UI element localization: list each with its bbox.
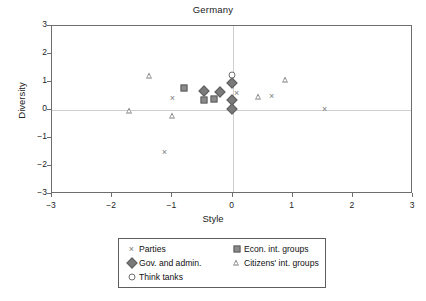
y-tick-label: −1 <box>25 131 47 141</box>
data-point <box>161 149 168 156</box>
data-point <box>169 95 176 102</box>
data-point <box>226 103 237 114</box>
legend-symbol <box>231 244 242 255</box>
legend: PartiesEcon. int. groupsGov. and admin.C… <box>118 238 326 288</box>
x-tick-label: 0 <box>219 200 245 210</box>
marker-triangle-icon <box>234 259 240 265</box>
y-tick-label: 3 <box>25 19 47 29</box>
x-tick <box>51 193 52 197</box>
legend-label: Citizens' int. groups <box>244 258 319 268</box>
data-point <box>200 96 207 103</box>
legend-label: Gov. and admin. <box>139 258 201 268</box>
y-tick-label: 2 <box>25 47 47 57</box>
x-tick-label: −1 <box>158 200 184 210</box>
x-tick <box>352 193 353 197</box>
legend-item[interactable]: Citizens' int. groups <box>224 258 327 269</box>
x-tick <box>292 193 293 197</box>
data-point <box>226 77 237 88</box>
y-tick-label: −2 <box>25 159 47 169</box>
scatter-plot-figure: Germany Diversity Style 3210−1−2−3 −3−2−… <box>0 0 426 301</box>
y-tick-label: −3 <box>25 187 47 197</box>
x-tick-label: −3 <box>38 200 64 210</box>
data-point <box>210 96 217 103</box>
x-axis-label: Style <box>0 213 426 224</box>
marker-square-icon <box>233 246 240 253</box>
y-tick-label: 1 <box>25 75 47 85</box>
data-point <box>228 71 235 78</box>
x-tick <box>111 193 112 197</box>
legend-item[interactable]: Econ. int. groups <box>224 244 327 255</box>
legend-item[interactable]: Parties <box>119 244 224 255</box>
x-tick-label: 2 <box>339 200 365 210</box>
x-tick <box>171 193 172 197</box>
legend-label: Think tanks <box>139 272 183 282</box>
legend-grid: PartiesEcon. int. groupsGov. and admin.C… <box>119 242 325 284</box>
x-tick <box>412 193 413 197</box>
legend-label: Econ. int. groups <box>244 244 309 254</box>
y-tick-label: 0 <box>25 103 47 113</box>
data-point <box>146 72 152 78</box>
legend-symbol <box>126 272 137 283</box>
data-point <box>321 105 328 112</box>
marker-x-icon <box>128 246 135 253</box>
marker-circle-icon <box>128 274 135 281</box>
legend-symbol <box>126 258 137 269</box>
x-tick-label: 1 <box>279 200 305 210</box>
data-point <box>126 107 132 113</box>
data-point <box>282 76 288 82</box>
data-point <box>169 112 175 118</box>
y-axis-label: Diversity <box>16 61 27 141</box>
x-tick-label: −2 <box>98 200 124 210</box>
data-point <box>268 93 275 100</box>
legend-symbol <box>231 258 242 269</box>
x-tick <box>232 193 233 197</box>
legend-symbol <box>126 244 137 255</box>
data-point <box>181 84 188 91</box>
marker-diamond-icon <box>126 257 137 268</box>
legend-item[interactable]: Gov. and admin. <box>119 258 224 269</box>
page-title: Germany <box>0 4 426 15</box>
plot-area <box>51 25 412 193</box>
legend-item[interactable]: Think tanks <box>119 272 224 283</box>
x-tick-label: 3 <box>399 200 425 210</box>
legend-label: Parties <box>139 244 166 254</box>
data-point <box>255 93 261 99</box>
